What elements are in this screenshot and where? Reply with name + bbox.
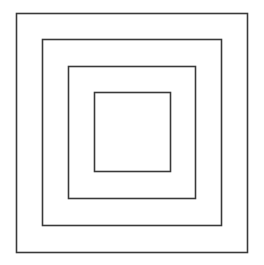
concentric-squares-diagram — [0, 0, 264, 265]
